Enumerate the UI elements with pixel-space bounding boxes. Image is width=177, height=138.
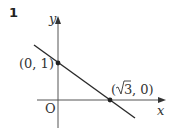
point-x-intercept: [108, 98, 113, 103]
y-axis-label: y: [48, 11, 57, 26]
svg-text:, 0): , 0): [132, 82, 154, 97]
svg-text:(: (: [111, 82, 116, 97]
point-y-intercept-label: (0, 1): [19, 56, 54, 71]
x-axis-label: x: [157, 103, 165, 118]
point-y-intercept: [56, 61, 61, 66]
coordinate-diagram: y x O (0, 1) ( 3 , 0): [0, 0, 177, 138]
point-x-intercept-label: ( 3 , 0): [111, 81, 154, 97]
origin-label: O: [45, 101, 56, 116]
